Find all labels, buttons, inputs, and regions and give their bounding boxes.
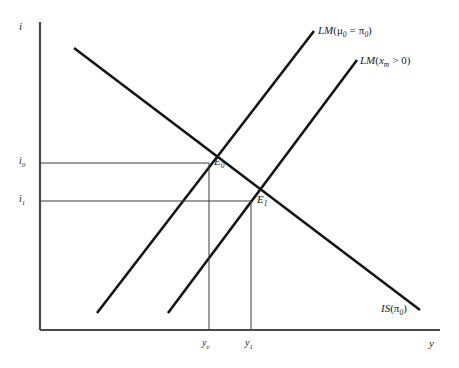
is-base: IS <box>381 302 390 314</box>
y-tick-label-i1: i1 <box>19 194 25 207</box>
lm1-base: LM <box>360 54 375 66</box>
lm-baseline-curve-label: LM(μ0=π0) <box>318 25 372 39</box>
x-axis-label: y <box>429 338 434 349</box>
x-tick-ye-sub: e <box>206 343 209 350</box>
lm0-close-paren: ) <box>368 24 372 36</box>
y-tick-i1-sub: 1 <box>22 199 25 206</box>
x-tick-y1-sub: 1 <box>249 343 252 350</box>
y-tick-i0-sub: 0 <box>22 161 25 168</box>
e0-base: E <box>214 155 221 167</box>
x-tick-label-y1: y1 <box>245 338 253 351</box>
lm-curve-baseline <box>97 31 314 313</box>
e1-base: E <box>257 193 264 205</box>
is-lm-diagram: i y i0 i1 ye y1 LM(μ0=π0) LM(xm> 0) IS(π… <box>0 0 459 368</box>
equilibrium-label-e1: E1 <box>257 194 267 208</box>
x-tick-label-ye: ye <box>202 338 209 351</box>
e1-sub: 1 <box>264 199 268 208</box>
y-axis-label: i <box>19 21 22 32</box>
y-tick-label-i0: i0 <box>19 156 25 169</box>
lm0-base: LM <box>318 24 333 36</box>
is-curve <box>74 48 420 310</box>
e0-sub: 0 <box>221 161 225 170</box>
is-close-paren: ) <box>403 302 407 314</box>
is-curve-label: IS(π0) <box>381 303 407 317</box>
lm0-equals: = <box>347 24 359 36</box>
lm1-relation: > 0 <box>389 54 406 66</box>
lm-shifted-curve-label: LM(xm> 0) <box>360 55 410 69</box>
equilibrium-label-e0: E0 <box>214 156 224 170</box>
lm1-close-paren: ) <box>407 54 411 66</box>
